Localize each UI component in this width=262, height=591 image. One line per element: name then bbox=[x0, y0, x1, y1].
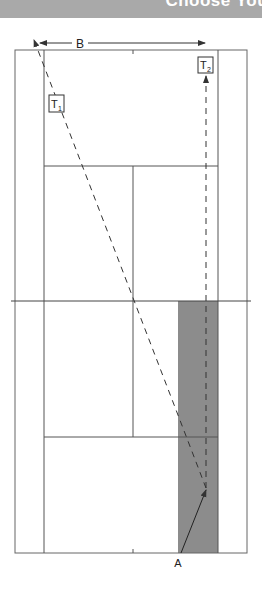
target1-label: T bbox=[51, 98, 58, 110]
width-label: B bbox=[76, 37, 84, 51]
tennis-court-diagram: B T 1 T 2 A bbox=[0, 0, 262, 591]
shaded-serve-zone bbox=[178, 301, 218, 553]
target2-subscript: 2 bbox=[207, 66, 211, 73]
target2-label: T bbox=[200, 59, 207, 71]
target1-subscript: 1 bbox=[58, 105, 62, 112]
server-label: A bbox=[174, 557, 182, 569]
page: Choose Your Wi B bbox=[0, 0, 262, 591]
